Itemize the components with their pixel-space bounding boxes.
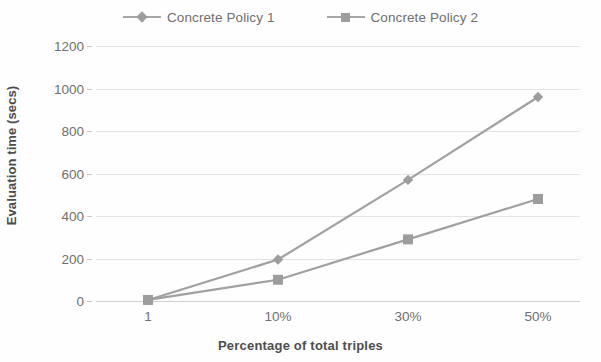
y-axis-tick-mark: [87, 131, 92, 132]
y-axis-tick-labels: 020040060080010001200: [0, 0, 96, 310]
legend-label-series-2: Concrete Policy 2: [371, 10, 479, 25]
legend-entry-concrete-policy-2[interactable]: Concrete Policy 2: [327, 10, 479, 25]
legend-marker-square-icon: [327, 10, 365, 24]
y-axis-tick-mark: [87, 89, 92, 90]
data-point-square: [143, 295, 153, 305]
series-1: [143, 92, 543, 305]
y-axis-tick-mark: [87, 174, 92, 175]
plot-area: [96, 46, 580, 301]
x-axis-tick-label: 10%: [264, 309, 291, 324]
y-axis-tick-label: 1000: [54, 81, 84, 96]
legend-label-series-1: Concrete Policy 1: [167, 10, 275, 25]
data-point-square: [273, 275, 283, 285]
y-axis-tick-label: 1200: [54, 39, 84, 54]
series-2: [143, 194, 543, 305]
x-axis-title: Percentage of total triples: [0, 338, 601, 353]
x-axis-tick-label: 1: [144, 309, 152, 324]
y-axis-tick-label: 400: [61, 209, 84, 224]
y-axis-tick-label: 600: [61, 166, 84, 181]
x-axis-tick-label: 50%: [524, 309, 551, 324]
series-line: [148, 199, 538, 300]
x-axis-tick-label: 30%: [394, 309, 421, 324]
legend-marker-diamond-icon: [123, 10, 161, 24]
legend-entry-concrete-policy-1[interactable]: Concrete Policy 1: [123, 10, 275, 25]
series-container: [96, 46, 580, 301]
y-axis-tick-mark: [87, 46, 92, 47]
series-line: [148, 97, 538, 300]
data-point-square: [403, 234, 413, 244]
y-axis-tick-label: 200: [61, 251, 84, 266]
y-axis-tick-label: 0: [76, 294, 84, 309]
y-axis-tick-mark: [87, 301, 92, 302]
y-axis-tick-mark: [87, 259, 92, 260]
data-point-diamond: [403, 175, 413, 185]
data-point-diamond: [273, 254, 283, 264]
data-point-square: [533, 194, 543, 204]
y-axis-tick-label: 800: [61, 124, 84, 139]
data-point-diamond: [533, 92, 543, 102]
y-axis-tick-mark: [87, 216, 92, 217]
line-chart: Concrete Policy 1 Concrete Policy 2 Eval…: [0, 0, 601, 362]
gridline: [96, 301, 580, 302]
x-axis-tick-labels: 110%30%50%: [96, 309, 580, 331]
